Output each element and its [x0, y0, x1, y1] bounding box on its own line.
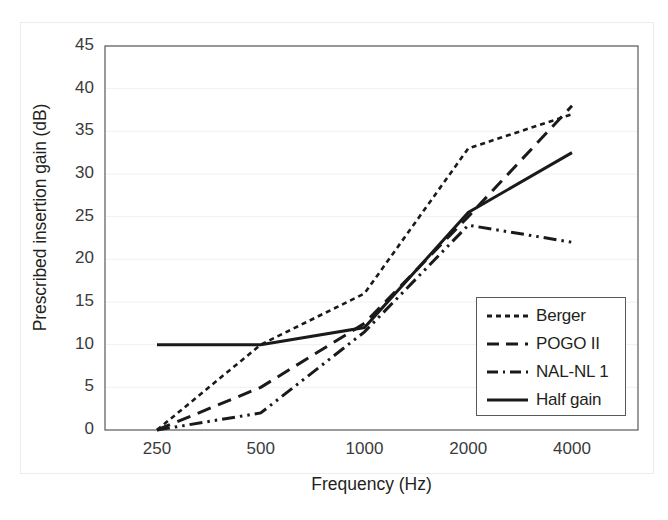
dashed-line-swatch	[486, 337, 529, 351]
y-tick-label: 0	[54, 419, 94, 439]
legend-item-label: NAL-NL 1	[536, 362, 608, 382]
dash-dot-dot-line-swatch	[486, 365, 529, 379]
x-axis-title: Frequency (Hz)	[105, 474, 638, 495]
y-tick-label: 40	[54, 78, 94, 98]
dotted-line-swatch	[486, 309, 529, 323]
legend-item-label: Half gain	[536, 390, 601, 410]
legend-item-label: Berger	[536, 306, 586, 326]
y-tick-label: 30	[54, 163, 94, 183]
x-tick-label: 2000	[433, 439, 503, 459]
y-tick-label: 20	[54, 248, 94, 268]
y-tick-label: 35	[54, 120, 94, 140]
y-tick-label: 25	[54, 206, 94, 226]
legend-item-label: POGO II	[536, 334, 600, 354]
legend-item-berger[interactable]: Berger	[477, 302, 625, 330]
y-tick-label: 5	[54, 376, 94, 396]
solid-line-swatch	[486, 393, 529, 407]
x-tick-label: 4000	[537, 439, 607, 459]
x-tick-label: 250	[122, 439, 192, 459]
chart-legend: BergerPOGO IINAL-NL 1Half gain	[476, 297, 626, 416]
line-chart: 051015202530354045 250500100020004000 Pr…	[0, 0, 668, 520]
legend-item-half-gain[interactable]: Half gain	[477, 386, 625, 414]
legend-item-nal-nl-1[interactable]: NAL-NL 1	[477, 358, 625, 386]
legend-item-pogo-ii[interactable]: POGO II	[477, 330, 625, 358]
x-tick-label: 500	[226, 439, 296, 459]
y-tick-label: 10	[54, 334, 94, 354]
y-axis-title: Prescribed insertion gain (dB)	[30, 28, 51, 408]
y-tick-label: 15	[54, 291, 94, 311]
y-tick-label: 45	[54, 35, 94, 55]
x-tick-label: 1000	[330, 439, 400, 459]
